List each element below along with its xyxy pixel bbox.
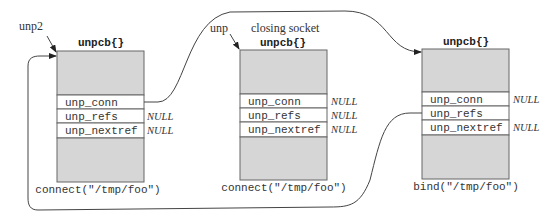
struct-3-bottom-shade	[422, 135, 509, 179]
struct-3-title: unpcb{}	[443, 36, 489, 48]
struct-1-field-value: NULL	[146, 111, 173, 122]
struct-1-field-value: NULL	[146, 125, 173, 136]
struct-2-extra-label: closing socket	[251, 21, 320, 35]
struct-3: unpcb{} unp_conn unp_refs unp_nextref NU…	[413, 36, 539, 193]
struct-3-field-name: unp_refs	[430, 108, 483, 120]
struct-1-field-name: unp_conn	[65, 97, 118, 109]
struct-2: unpcb{} closing socket unp unp_conn unp_…	[210, 21, 357, 194]
struct-3-caption: bind("/tmp/foo")	[413, 181, 519, 193]
struct-1-field-name: unp_refs	[65, 111, 118, 123]
struct-3-field-name: unp_nextref	[430, 122, 503, 134]
struct-1: unpcb{} unp2 unp_conn unp_refs unp_nextr…	[19, 19, 173, 196]
diagram-canvas: unpcb{} unp2 unp_conn unp_refs unp_nextr…	[0, 0, 558, 218]
unp2-pointer-arrow	[47, 36, 56, 52]
struct-2-pointer-label: unp	[210, 21, 228, 35]
struct-3-field-value: NULL	[512, 94, 539, 105]
struct-1-field-name: unp_nextref	[65, 125, 138, 137]
struct-3-field-name: unp_conn	[430, 94, 483, 106]
struct-2-caption: connect("/tmp/foo")	[221, 182, 346, 194]
struct-2-field-value: NULL	[330, 124, 357, 135]
struct-1-caption: connect("/tmp/foo")	[35, 184, 160, 196]
unp-pointer-arrow	[230, 34, 239, 49]
struct-3-top-shade	[422, 49, 509, 92]
struct-2-field-name: unp_conn	[248, 96, 301, 108]
struct-2-bottom-shade	[240, 137, 327, 180]
struct-2-field-name: unp_nextref	[248, 124, 321, 136]
struct-2-field-name: unp_refs	[248, 110, 301, 122]
struct-2-field-value: NULL	[330, 96, 357, 107]
struct-1-pointer-label: unp2	[19, 19, 43, 33]
struct-2-top-shade	[240, 50, 327, 94]
struct-2-field-value: NULL	[330, 110, 357, 121]
struct-1-bottom-shade	[57, 138, 144, 182]
struct-1-top-shade	[57, 51, 144, 95]
struct-1-title: unpcb{}	[78, 37, 124, 49]
struct-3-field-value: NULL	[512, 122, 539, 133]
struct-2-title: unpcb{}	[260, 37, 306, 49]
